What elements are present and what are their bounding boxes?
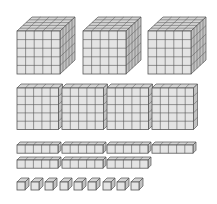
ones-unit-block <box>60 178 72 190</box>
hundreds-flat-block <box>107 84 153 130</box>
hundreds-flat-block <box>152 84 198 130</box>
ones-unit-block <box>45 178 57 190</box>
tens-rod-block <box>62 142 106 153</box>
base-ten-blocks-diagram <box>0 0 217 204</box>
thousands-cube-block <box>83 17 141 74</box>
thousands-cubes <box>17 17 206 74</box>
ones-unit-block <box>103 178 115 190</box>
tens-rod-block <box>17 157 61 168</box>
ones-units <box>17 178 143 190</box>
tens-rod-block <box>17 142 61 153</box>
ones-unit-block <box>31 178 43 190</box>
tens-rods <box>17 142 196 168</box>
ones-unit-block <box>117 178 129 190</box>
ones-unit-block <box>74 178 86 190</box>
tens-rod-block <box>152 142 196 153</box>
tens-rod-block <box>62 157 106 168</box>
thousands-cube-block <box>17 17 75 74</box>
hundreds-flat-block <box>17 84 63 130</box>
tens-rod-block <box>107 157 151 168</box>
thousands-cube-block <box>148 17 206 74</box>
ones-unit-block <box>17 178 29 190</box>
hundreds-flats <box>17 84 198 130</box>
blocks-canvas <box>0 0 217 204</box>
hundreds-flat-block <box>62 84 108 130</box>
tens-rod-block <box>107 142 151 153</box>
ones-unit-block <box>131 178 143 190</box>
ones-unit-block <box>88 178 100 190</box>
